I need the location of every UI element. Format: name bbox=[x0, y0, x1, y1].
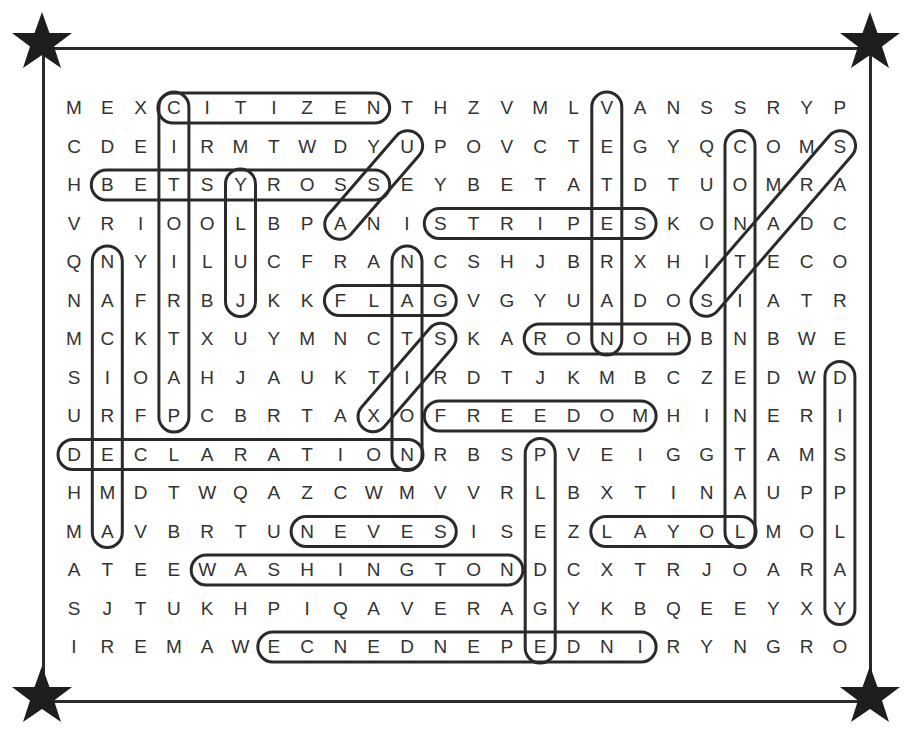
found-word-display bbox=[825, 362, 855, 625]
found-word-freedom bbox=[424, 401, 656, 431]
found-word-honor bbox=[524, 324, 689, 354]
word-search-puzzle: MEXCITIZENTHZVMLVANSSRYPCDEIRMTWDYUPOVCT… bbox=[0, 0, 910, 736]
found-word-american bbox=[92, 246, 122, 548]
found-word-citizen bbox=[158, 93, 390, 123]
found-word-six bbox=[352, 317, 462, 438]
found-word-independence bbox=[258, 632, 656, 662]
found-word-veteran bbox=[592, 92, 622, 355]
found-word-continental bbox=[725, 131, 755, 548]
found-word-seven bbox=[291, 517, 456, 547]
found-word-pledge bbox=[525, 439, 555, 664]
found-word-capsules bbox=[0, 0, 910, 736]
found-word-loyal bbox=[591, 517, 756, 547]
found-word-july bbox=[226, 169, 256, 317]
found-word-flag bbox=[324, 286, 456, 316]
found-word-nation bbox=[392, 246, 422, 471]
found-word-usa bbox=[319, 125, 429, 246]
found-word-declaration bbox=[58, 440, 423, 470]
found-word-stars bbox=[685, 125, 862, 323]
found-word-washington bbox=[191, 555, 523, 585]
found-word-patriotic bbox=[159, 92, 189, 432]
